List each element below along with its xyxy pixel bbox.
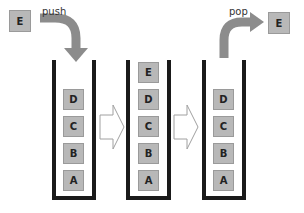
stack-item: D [213, 89, 234, 110]
stack-item: C [213, 116, 234, 137]
push-label: push [42, 6, 66, 17]
item-label: A [70, 175, 78, 186]
stack-item: B [138, 143, 159, 164]
item-label: A [220, 175, 228, 186]
step-arrow-2-icon [174, 105, 198, 149]
stack-item: C [138, 116, 159, 137]
stack-item: B [213, 143, 234, 164]
pop-element-box: E [268, 12, 290, 34]
item-label: D [69, 94, 77, 105]
stack-item: A [213, 170, 234, 191]
stack-item: A [138, 170, 159, 191]
push-element-box: E [9, 10, 31, 32]
item-label: C [145, 121, 152, 132]
item-label: C [220, 121, 227, 132]
stack-item: D [63, 89, 84, 110]
pop-element-label: E [276, 18, 283, 29]
stack-item: A [63, 170, 84, 191]
item-label: D [219, 94, 227, 105]
push-arrow-icon [40, 18, 88, 62]
item-label: B [220, 148, 228, 159]
item-label: C [70, 121, 77, 132]
item-label: B [70, 148, 78, 159]
pop-arrow-icon [224, 12, 264, 58]
item-label: E [145, 67, 152, 78]
pop-label: pop [229, 6, 248, 17]
item-label: D [144, 94, 152, 105]
stack-item: E [138, 62, 159, 83]
stack-item: C [63, 116, 84, 137]
stack-item: D [138, 89, 159, 110]
step-arrow-1-icon [100, 105, 124, 149]
stack-item: B [63, 143, 84, 164]
item-label: A [145, 175, 153, 186]
item-label: B [145, 148, 153, 159]
push-element-label: E [17, 16, 24, 27]
